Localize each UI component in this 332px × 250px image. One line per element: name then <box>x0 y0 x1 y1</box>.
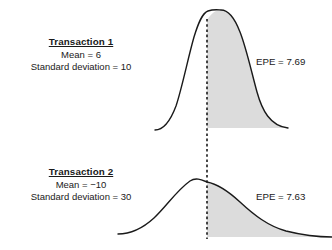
transaction1-epe-label: EPE = 7.69 <box>256 56 305 67</box>
transaction2-info-block: Transaction 2 Mean = −10 Standard deviat… <box>6 166 156 204</box>
transaction2-title: Transaction 2 <box>6 166 156 179</box>
transaction2-stdev: Standard deviation = 30 <box>6 191 156 204</box>
transaction2-epe-label: EPE = 7.63 <box>256 191 305 202</box>
transaction1-info-block: Transaction 1 Mean = 6 Standard deviatio… <box>6 36 156 74</box>
transaction1-stdev: Standard deviation = 10 <box>6 61 156 74</box>
epe-distribution-figure: Transaction 1 Mean = 6 Standard deviatio… <box>0 0 332 250</box>
transaction1-mean: Mean = 6 <box>6 49 156 62</box>
transaction1-title: Transaction 1 <box>6 36 156 49</box>
transaction1-shaded-area <box>207 10 288 128</box>
transaction2-mean: Mean = −10 <box>6 179 156 192</box>
